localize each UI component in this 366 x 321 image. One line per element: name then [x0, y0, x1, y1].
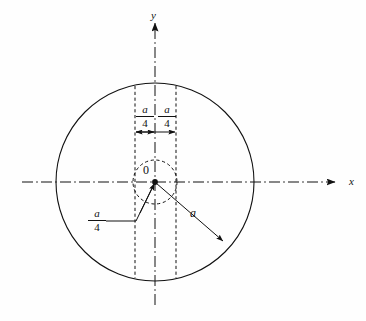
diagram-canvas: [0, 0, 366, 321]
dimension-label-left: a 4: [136, 104, 154, 130]
dimension-label-right: a 4: [158, 104, 176, 130]
inner-radius-leader-arrow: [140, 184, 155, 214]
inner-radius-label-denominator: 4: [88, 222, 106, 234]
dimension-label-right-denominator: 4: [158, 118, 176, 130]
dimension-label-left-numerator: a: [136, 104, 154, 116]
dimension-label-left-denominator: 4: [136, 118, 154, 130]
inner-radius-label: a 4: [88, 208, 106, 234]
y-axis-label: y: [151, 10, 156, 21]
inner-radius-label-numerator: a: [88, 208, 106, 220]
radius-label: a: [190, 207, 196, 219]
figure-container: x y 0 a 4 a 4 a 4 a: [0, 0, 366, 321]
dimension-label-right-numerator: a: [158, 104, 176, 116]
x-axis-label: x: [349, 176, 354, 187]
origin-point: [152, 179, 158, 185]
origin-label: 0: [143, 164, 149, 176]
